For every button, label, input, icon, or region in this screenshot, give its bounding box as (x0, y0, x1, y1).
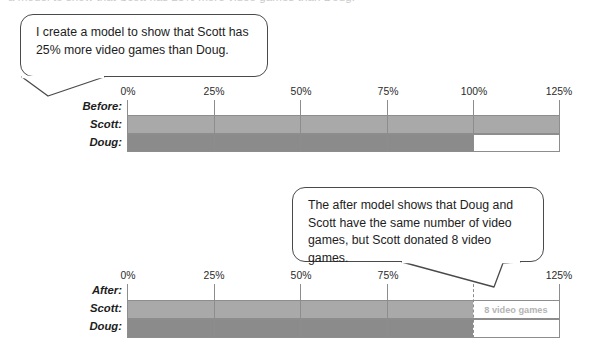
tick-75: 75% (378, 270, 399, 281)
gridline-25 (214, 100, 215, 152)
chart-before-row-scott: Scott: (90, 118, 122, 130)
chart-before-row-doug: Doug: (89, 136, 122, 148)
chart-after-title: After: (92, 284, 122, 296)
tick-125: 125% (546, 86, 573, 97)
gridline-25 (214, 284, 215, 338)
bar-before-scott-fill (128, 116, 559, 133)
callout-before: I create a model to show that Scott has … (20, 14, 268, 77)
bar-after-doug (127, 319, 560, 338)
tick-25: 25% (204, 86, 225, 97)
tick-50: 50% (291, 270, 312, 281)
chart-before-row-labels: Before: Scott: Doug: (30, 100, 122, 152)
bar-before-scott (127, 115, 560, 134)
chart-after-row-scott: Scott: (90, 302, 122, 314)
bar-after-scott: 8 video games (127, 300, 560, 319)
gridline-50 (300, 284, 301, 338)
tick-0: 0% (120, 270, 135, 281)
callout-after-line2: Scott have the same number of video (308, 215, 530, 233)
clipped-top-text: a model to show that Scott has 25% more … (8, 0, 428, 5)
callout-before-line1: I create a model to show that Scott has (36, 24, 254, 42)
callout-after: The after model shows that Doug and Scot… (292, 187, 544, 262)
callout-after-line1: The after model shows that Doug and (308, 197, 530, 215)
callout-after-tail (400, 255, 560, 295)
callout-before-tail (20, 70, 150, 102)
chart-before-plot (127, 100, 560, 152)
bar-after-scott-annotation: 8 video games (473, 301, 559, 318)
tick-75: 75% (378, 86, 399, 97)
tick-25: 25% (204, 270, 225, 281)
chart-after-row-labels: After: Scott: Doug: (30, 284, 122, 338)
callout-before-line2: 25% more video games than Doug. (36, 42, 254, 60)
gridline-75 (387, 100, 388, 152)
gridline-75 (387, 284, 388, 338)
tick-100: 100% (461, 86, 488, 97)
tick-50: 50% (291, 86, 312, 97)
gridline-50 (300, 100, 301, 152)
chart-after-row-doug: Doug: (89, 320, 122, 332)
bar-before-doug (127, 134, 560, 152)
gridline-100 (473, 100, 474, 152)
